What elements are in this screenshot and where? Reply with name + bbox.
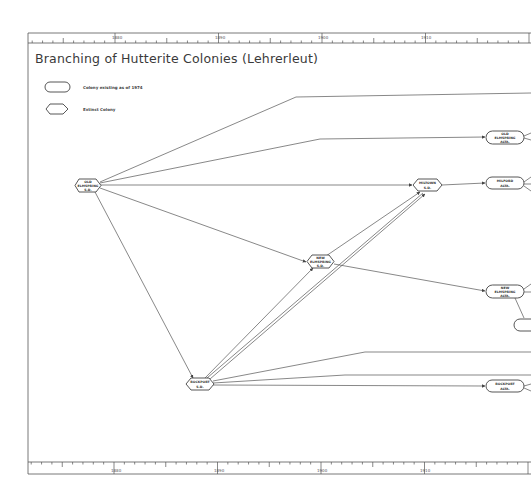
colony-node-existing[interactable]: NEW ELMSPRING ALTA. bbox=[486, 285, 524, 298]
legend-extinct-shape bbox=[46, 104, 68, 114]
edge bbox=[213, 352, 531, 381]
edge bbox=[326, 192, 420, 256]
svg-text:ALTA.: ALTA. bbox=[500, 140, 510, 144]
edge-stub bbox=[524, 133, 531, 136]
frame bbox=[28, 33, 531, 474]
svg-text:ROCKPORT: ROCKPORT bbox=[190, 380, 210, 384]
colony-node-extinct[interactable]: MILTOWN S.D. bbox=[413, 179, 442, 191]
svg-text:S.D.: S.D. bbox=[317, 264, 324, 268]
edge bbox=[100, 188, 306, 262]
nodes: OLD ELMSPRING S.D. OLD ELMSPRING ALTA. M… bbox=[75, 131, 531, 392]
edge-stub bbox=[524, 384, 531, 386]
legend-existing-shape bbox=[45, 82, 70, 92]
colony-node-existing[interactable]: ROCKPORT ALTA. bbox=[486, 380, 524, 392]
svg-text:S.D.: S.D. bbox=[196, 385, 203, 389]
svg-text:ALTA.: ALTA. bbox=[500, 184, 510, 188]
edge bbox=[213, 385, 485, 386]
colony-node-extinct[interactable]: ROCKPORT S.D. bbox=[186, 378, 214, 390]
legend-existing-label: Colony existing as of 1974 bbox=[83, 85, 143, 90]
colony-node-existing[interactable]: MILFORD ALTA. bbox=[486, 177, 524, 189]
top-tick-label: 1890 bbox=[215, 35, 226, 40]
edge bbox=[334, 264, 485, 291]
edge-stub bbox=[524, 284, 531, 289]
svg-text:MILFORD: MILFORD bbox=[497, 179, 514, 183]
edge bbox=[442, 183, 485, 185]
edge bbox=[100, 137, 485, 183]
edge-stub bbox=[524, 138, 531, 140]
svg-text:ROCKPORT: ROCKPORT bbox=[495, 382, 515, 386]
bottom-tick-label: 1890 bbox=[214, 468, 225, 473]
bottom-tick-label: 1900 bbox=[317, 468, 328, 473]
bottom-axis-labels: 1880 1890 1900 1910 bbox=[111, 468, 431, 473]
edges bbox=[95, 93, 531, 391]
edge bbox=[205, 268, 313, 378]
legend-extinct-label: Extinct Colony bbox=[83, 107, 115, 112]
colony-node-extinct[interactable]: NEW ELMSPRING S.D. bbox=[307, 255, 334, 268]
edge-stub bbox=[524, 177, 531, 182]
svg-text:ALTA.: ALTA. bbox=[500, 294, 510, 298]
edge bbox=[210, 194, 425, 379]
edge bbox=[213, 375, 531, 383]
svg-text:S.D.: S.D. bbox=[424, 186, 431, 190]
branching-diagram: 1880 1890 1900 1910 1880 1890 1900 1910 bbox=[0, 0, 531, 500]
svg-text:MILTOWN: MILTOWN bbox=[419, 181, 436, 185]
bottom-axis-ticks bbox=[31, 462, 528, 474]
edge-stub bbox=[524, 186, 531, 191]
legend-shapes bbox=[45, 82, 70, 114]
edge-stub bbox=[524, 388, 531, 391]
edge bbox=[95, 192, 193, 378]
svg-text:ALTA.: ALTA. bbox=[500, 387, 510, 391]
top-tick-label: 1900 bbox=[318, 35, 329, 40]
colony-node-extinct[interactable]: OLD ELMSPRING S.D. bbox=[75, 179, 101, 192]
bottom-tick-label: 1910 bbox=[420, 468, 431, 473]
bottom-tick-label: 1880 bbox=[111, 468, 122, 473]
diagram-canvas: 1880 1890 1900 1910 1880 1890 1900 1910 bbox=[0, 0, 531, 500]
top-axis-labels: 1880 1890 1900 1910 bbox=[112, 35, 432, 40]
diagram-title: Branching of Hutterite Colonies (Lehrerl… bbox=[35, 51, 318, 66]
top-axis-ticks bbox=[32, 33, 529, 43]
svg-text:S.D.: S.D. bbox=[84, 188, 91, 192]
edge bbox=[207, 193, 423, 378]
top-tick-label: 1910 bbox=[421, 35, 432, 40]
colony-node-partial bbox=[514, 319, 531, 331]
colony-node-existing[interactable]: OLD ELMSPRING ALTA. bbox=[486, 131, 524, 144]
edge bbox=[515, 298, 524, 318]
top-tick-label: 1880 bbox=[112, 35, 123, 40]
